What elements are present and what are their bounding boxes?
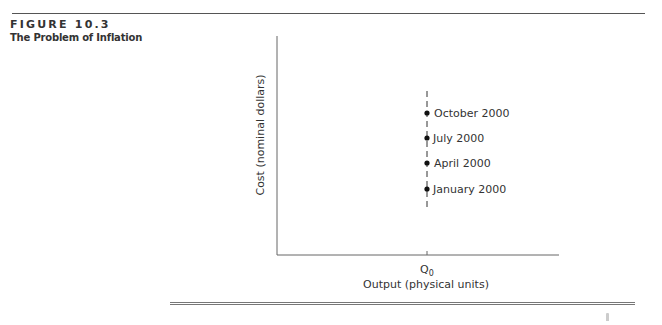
- label-january-2000: January 2000: [432, 183, 506, 196]
- scan-mark: [606, 313, 609, 321]
- chart: October 2000 July 2000 April 2000 Januar…: [0, 0, 662, 325]
- label-april-2000: April 2000: [434, 157, 491, 170]
- bottom-double-rule: [170, 302, 635, 305]
- point-april-2000: [424, 160, 429, 165]
- label-october-2000: October 2000: [434, 107, 510, 120]
- point-july-2000: [424, 135, 429, 140]
- y-axis-label: Cost (nominal dollars): [254, 74, 267, 195]
- point-january-2000: [424, 186, 429, 191]
- point-october-2000: [424, 110, 429, 115]
- x-axis-label: Output (physical units): [363, 278, 489, 291]
- x-tick-label-q0: Q0: [420, 263, 434, 278]
- label-july-2000: July 2000: [432, 132, 484, 145]
